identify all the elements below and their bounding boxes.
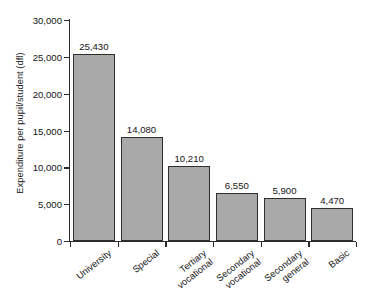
x-axis-tick-mark xyxy=(356,242,357,248)
y-axis-tick-mark xyxy=(64,167,70,168)
bar-value-label: 4,470 xyxy=(320,195,344,206)
y-axis-tick-label: 0 xyxy=(57,236,62,247)
y-axis-tick-label: 20,000 xyxy=(33,88,62,99)
y-axis-tick-mark xyxy=(64,131,70,132)
x-axis-tick-mark xyxy=(118,242,119,248)
y-axis-tick-label: 10,000 xyxy=(33,162,62,173)
bar-value-label: 6,550 xyxy=(225,180,249,191)
x-axis-tick-mark xyxy=(70,242,71,248)
bar xyxy=(121,137,163,241)
bar xyxy=(216,193,258,241)
bar xyxy=(73,54,115,241)
y-axis-tick-mark xyxy=(64,57,70,58)
y-axis-tick-mark xyxy=(64,204,70,205)
y-axis-tick-mark xyxy=(64,94,70,95)
bar xyxy=(264,198,306,241)
bar xyxy=(311,208,353,241)
y-axis-tick-mark xyxy=(64,20,70,21)
x-axis-tick-mark xyxy=(165,242,166,248)
x-axis-tick-mark xyxy=(261,242,262,248)
bar-value-label: 5,900 xyxy=(272,185,296,196)
y-axis-tick-label: 30,000 xyxy=(33,15,62,26)
x-axis-tick-mark xyxy=(213,242,214,248)
y-axis-tick-label: 5,000 xyxy=(38,199,62,210)
y-axis-title: Expenditure per pupil/student (dfl) xyxy=(15,16,25,231)
bar-value-label: 14,080 xyxy=(127,124,156,135)
bar-value-label: 10,210 xyxy=(174,153,203,164)
bar xyxy=(168,166,210,241)
y-axis-tick-label: 15,000 xyxy=(33,125,62,136)
plot-area: 05,00010,00015,00020,00025,00030,000 25,… xyxy=(70,20,356,241)
bar-value-label: 25,430 xyxy=(79,41,108,52)
y-axis-tick-label: 25,000 xyxy=(33,51,62,62)
bar-chart: Expenditure per pupil/student (dfl) 05,0… xyxy=(0,0,369,304)
x-axis-tick-mark xyxy=(308,242,309,248)
